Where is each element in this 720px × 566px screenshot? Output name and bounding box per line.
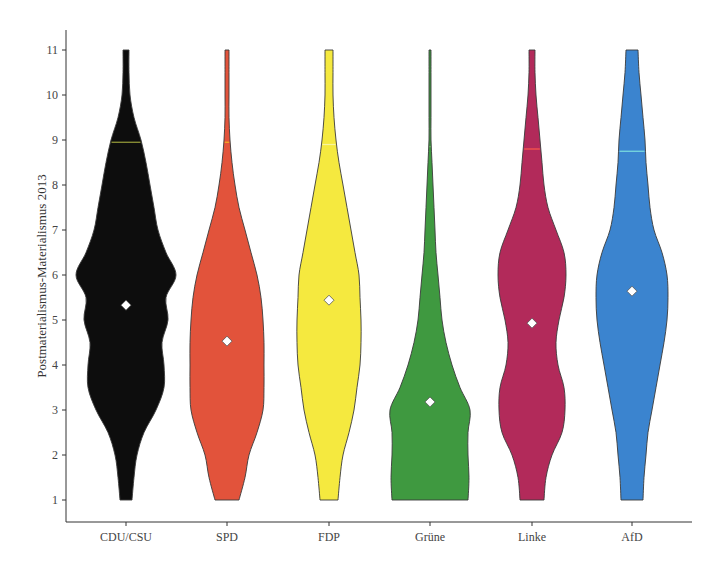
violin-fdp: [297, 50, 361, 500]
violin-linke: [498, 50, 566, 500]
x-tick-label-1: SPD: [216, 530, 238, 544]
x-axis-ticks: CDU/CSUSPDFDPGrüneLinkeAfD: [100, 522, 643, 544]
x-tick-label-3: Grüne: [415, 530, 445, 544]
x-tick-label-4: Linke: [518, 530, 546, 544]
y-tick-label: 5: [52, 313, 58, 327]
violin-cducsu: [76, 50, 176, 500]
y-tick-label: 2: [52, 448, 58, 462]
y-axis-label: Postmaterialismus-Materialismus 2013: [34, 174, 49, 377]
x-tick-label-0: CDU/CSU: [100, 530, 152, 544]
y-tick-label: 6: [52, 268, 58, 282]
quantile-markers: [112, 142, 645, 151]
violin-group: [76, 50, 668, 500]
y-tick-label: 11: [46, 43, 58, 57]
violin-spd: [190, 50, 264, 500]
x-tick-label-2: FDP: [318, 530, 340, 544]
x-tick-label-5: AfD: [621, 530, 643, 544]
y-tick-label: 10: [46, 88, 58, 102]
y-tick-label: 9: [52, 133, 58, 147]
violin-afd: [596, 50, 668, 500]
y-tick-label: 8: [52, 178, 58, 192]
violin-grne: [390, 50, 471, 500]
y-tick-label: 3: [52, 403, 58, 417]
y-tick-label: 1: [52, 493, 58, 507]
violin-chart: 1234567891011 CDU/CSUSPDFDPGrüneLinkeAfD…: [0, 0, 720, 566]
y-axis-ticks: 1234567891011: [46, 43, 66, 507]
y-tick-label: 7: [52, 223, 58, 237]
y-tick-label: 4: [52, 358, 58, 372]
